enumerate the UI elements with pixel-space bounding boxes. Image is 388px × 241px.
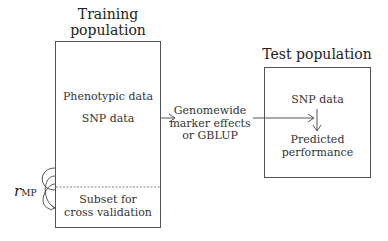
correlation-arrows-icon bbox=[42, 168, 55, 210]
connectors bbox=[0, 0, 388, 241]
arrow-model-to-test bbox=[253, 114, 314, 122]
arrow-training-to-model bbox=[161, 114, 175, 122]
arrow-snp-to-predicted bbox=[313, 109, 321, 131]
